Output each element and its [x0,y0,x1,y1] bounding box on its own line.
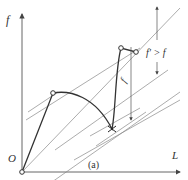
origin-label: O [8,152,16,164]
guide-lines [22,8,180,180]
gap-small-label: f [118,76,130,85]
gap-large-label: f' > f [146,47,167,58]
x-axis-label: L [171,149,178,161]
caption: (a) [88,159,99,171]
y-axis-label: f [6,13,11,27]
diagram-canvas: f L O (a) f f' > f [0,0,188,180]
node-circles [20,46,139,175]
load-curve [22,48,136,172]
